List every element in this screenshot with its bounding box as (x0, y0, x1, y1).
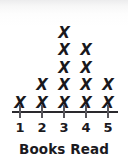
axis-tick (63, 105, 65, 118)
x-mark: X (79, 42, 93, 60)
plot-title: Books Read (0, 141, 128, 158)
tick-label: 1 (9, 120, 31, 136)
axis-tick (19, 105, 21, 118)
tick-label: 5 (97, 120, 119, 136)
line-plot-books-read: XXXXXXXXXXXXXX 12345 Books Read (0, 0, 128, 163)
axis-tick (41, 105, 43, 118)
x-mark: X (35, 77, 49, 95)
mark-column: XXXXX (53, 25, 75, 113)
x-mark: X (57, 42, 71, 60)
x-marks-layer: XXXXXXXXXXXXXX (0, 0, 128, 112)
tick-label: 2 (31, 120, 53, 136)
x-mark: X (79, 60, 93, 78)
mark-column: XXXX (75, 42, 97, 112)
tick-label: 3 (53, 120, 75, 136)
tick-label: 4 (75, 120, 97, 136)
x-axis-tick-labels: 12345 (0, 120, 128, 138)
x-mark: X (79, 77, 93, 95)
x-mark: X (57, 60, 71, 78)
x-mark: X (101, 77, 115, 95)
x-mark: X (57, 77, 71, 95)
axis-tick (107, 105, 109, 118)
x-mark: X (57, 25, 71, 43)
x-axis-line (12, 111, 118, 113)
axis-tick (85, 105, 87, 118)
